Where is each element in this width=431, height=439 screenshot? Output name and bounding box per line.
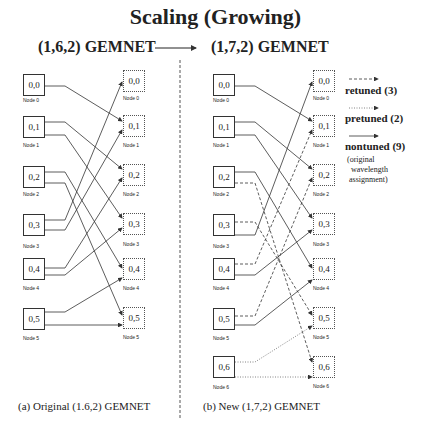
left-dest-node-1: 0,1	[123, 115, 145, 137]
left-dest-node-0-label: Node 0	[123, 95, 139, 101]
left-source-node-2: 0,2	[23, 166, 45, 188]
right-source-node-0-label: Node 0	[213, 97, 229, 103]
left-dest-node-4: 0,4	[123, 258, 145, 280]
right-source-node-5-label: Node 5	[213, 335, 229, 341]
right-dest-node-6: 0,6	[313, 356, 335, 378]
right-source-node-4-label: Node 4	[213, 285, 229, 291]
right-source-node-0: 0,0	[213, 74, 235, 96]
caption-right: (b) New (1,7,2) GEMNET	[203, 400, 320, 412]
right-dest-node-0-label: Node 0	[313, 95, 329, 101]
left-source-node-2-label: Node 2	[23, 191, 39, 197]
left-dest-node-1-label: Node 1	[123, 142, 139, 148]
right-source-node-2: 0,2	[213, 166, 235, 188]
caption-left: (a) Original (1.6,2) GEMNET	[18, 400, 150, 412]
legend-retuned: retuned (3)	[345, 84, 397, 96]
right-source-node-1: 0,1	[213, 116, 235, 138]
left-source-node-0-label: Node 0	[23, 97, 39, 103]
left-dest-node-5: 0,5	[123, 307, 145, 329]
left-source-node-3: 0,3	[23, 214, 45, 236]
right-dest-node-2-label: Node 2	[313, 191, 329, 197]
left-dest-node-2: 0,2	[123, 164, 145, 186]
right-dest-node-1-label: Node 1	[313, 142, 329, 148]
left-source-node-4-label: Node 4	[23, 285, 39, 291]
legend-pretuned: pretuned (2)	[345, 112, 403, 124]
right-source-node-4: 0,4	[213, 258, 235, 280]
left-source-node-3-label: Node 3	[23, 243, 39, 249]
right-source-node-6: 0,6	[213, 356, 235, 378]
left-dest-node-0: 0,0	[123, 70, 145, 92]
right-dest-node-5-label: Node 5	[313, 334, 329, 340]
right-dest-node-6-label: Node 6	[313, 383, 329, 389]
right-source-node-2-label: Node 2	[213, 191, 229, 197]
legend-nontuned: nontuned (9)	[345, 140, 405, 152]
left-source-node-5-label: Node 5	[23, 335, 39, 341]
legend-note-line-2: wavelength	[351, 165, 388, 175]
right-source-node-5: 0,5	[213, 308, 235, 330]
left-source-node-0: 0,0	[23, 74, 45, 96]
right-dest-node-3: 0,3	[313, 213, 335, 235]
left-dest-node-3: 0,3	[123, 213, 145, 235]
right-source-node-6-label: Node 6	[213, 384, 229, 390]
right-dest-node-1: 0,1	[313, 115, 335, 137]
right-source-node-3-label: Node 3	[213, 243, 229, 249]
right-dest-node-4: 0,4	[313, 258, 335, 280]
right-dest-node-4-label: Node 4	[313, 285, 329, 291]
left-dest-node-3-label: Node 3	[123, 241, 139, 247]
right-dest-node-5: 0,5	[313, 307, 335, 329]
left-source-node-1: 0,1	[23, 116, 45, 138]
right-source-node-3: 0,3	[213, 214, 235, 236]
legend-note-line-1: (original	[347, 155, 375, 165]
right-dest-node-2: 0,2	[313, 164, 335, 186]
legend-note-line-3: assignment)	[349, 175, 388, 185]
right-source-node-1-label: Node 1	[213, 142, 229, 148]
left-source-node-4: 0,4	[23, 258, 45, 280]
right-dest-node-0: 0,0	[313, 70, 335, 92]
right-dest-node-3-label: Node 3	[313, 241, 329, 247]
left-dest-node-4-label: Node 4	[123, 285, 139, 291]
left-dest-node-2-label: Node 2	[123, 191, 139, 197]
left-dest-node-5-label: Node 5	[123, 334, 139, 340]
left-source-node-1-label: Node 1	[23, 142, 39, 148]
left-source-node-5: 0,5	[23, 308, 45, 330]
